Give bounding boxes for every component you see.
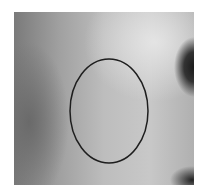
- region-ellipse: [70, 59, 148, 163]
- ellipse-overlay: [0, 0, 205, 196]
